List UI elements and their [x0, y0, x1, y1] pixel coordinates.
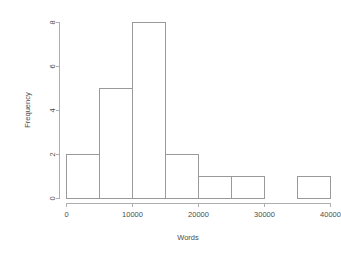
y-tick-label: 0	[48, 196, 57, 200]
x-axis-title: Words	[177, 233, 199, 242]
plot-area: 010000200003000040000 02468 Words Freque…	[0, 0, 341, 255]
y-tick-label: 8	[48, 20, 57, 24]
histogram-bar	[67, 155, 100, 199]
x-tick-label: 30000	[254, 210, 275, 219]
x-tick-label: 40000	[320, 210, 341, 219]
bars-group	[67, 23, 331, 199]
histogram-bar	[199, 177, 232, 199]
x-axis	[67, 204, 331, 208]
histogram-bar	[133, 23, 166, 199]
histogram-bar	[232, 177, 265, 199]
histogram-figure: 010000200003000040000 02468 Words Freque…	[0, 0, 341, 255]
x-tick-label: 0	[64, 210, 68, 219]
x-tick-labels: 010000200003000040000	[64, 210, 341, 219]
x-tick-label: 10000	[122, 210, 143, 219]
histogram-bar	[100, 89, 133, 199]
y-tick-label: 2	[48, 152, 57, 156]
x-tick-label: 20000	[188, 210, 209, 219]
y-tick-label: 6	[48, 64, 57, 68]
histogram-bar	[166, 155, 199, 199]
histogram-bar	[298, 177, 331, 199]
y-axis-title: Frequency	[23, 92, 32, 128]
y-tick-label: 4	[48, 108, 57, 112]
y-tick-labels: 02468	[48, 20, 57, 200]
